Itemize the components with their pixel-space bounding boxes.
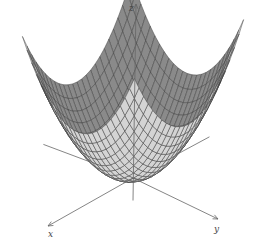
z-axis-label: z — [128, 3, 134, 13]
y-axis-line — [133, 178, 218, 219]
x-axis-line — [48, 178, 133, 226]
x-axis-label: x — [48, 229, 53, 239]
paraboloid-surface-plot: z x y — [0, 0, 266, 245]
surface-mesh — [22, 0, 243, 182]
y-axis-label: y — [213, 224, 220, 234]
